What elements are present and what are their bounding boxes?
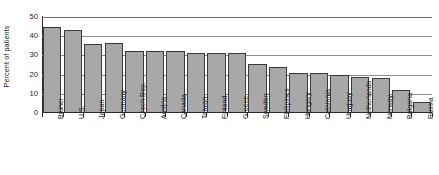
x-axis-category-label: Japan: [98, 119, 117, 173]
x-axis-category-label: U.S.: [78, 119, 92, 173]
y-axis-tick-labels: 01020304050: [12, 0, 38, 175]
y-axis-tick-label: 20: [16, 71, 38, 79]
x-axis-tick: [165, 113, 166, 117]
x-axis-tick: [411, 113, 412, 117]
x-axis-tick: [186, 113, 187, 117]
x-axis-tick: [227, 113, 228, 117]
x-axis-tick: [309, 113, 310, 117]
x-axis-tick: [247, 113, 248, 117]
x-axis-tick: [350, 113, 351, 117]
plot-area: [42, 17, 432, 113]
bar[interactable]: [64, 30, 82, 113]
x-axis-tick: [206, 113, 207, 117]
x-axis-tick: [432, 113, 433, 117]
bar-slot: [64, 17, 82, 113]
x-axis-tick: [329, 113, 330, 117]
x-axis-tick: [145, 113, 146, 117]
y-axis-tick-label: 10: [16, 90, 38, 98]
x-axis-tick: [42, 113, 43, 117]
x-axis-tick: [104, 113, 105, 117]
x-axis-category-label: Brunei: [57, 119, 78, 173]
bar-slot: [84, 17, 102, 113]
y-axis-tick-label: 0: [16, 109, 38, 117]
x-axis-tick: [268, 113, 269, 117]
x-axis-category-label: Russia: [427, 119, 439, 173]
x-axis-tick: [288, 113, 289, 117]
x-axis-tick: [370, 113, 371, 117]
bar-series: [42, 17, 432, 113]
x-axis-category-label: Austria: [160, 119, 182, 173]
y-axis-tick-label: 50: [16, 13, 38, 21]
x-axis-category-label: Taiwan: [201, 119, 223, 173]
x-axis-tick: [124, 113, 125, 117]
bar-chart-figure: Percent of patients 01020304050 BruneiU.…: [0, 0, 439, 175]
y-axis-title-text: Percent of patients: [3, 26, 12, 88]
x-axis-tick: [83, 113, 84, 117]
x-axis-tick: [391, 113, 392, 117]
y-axis-tick-label: 30: [16, 52, 38, 60]
y-axis-tick-label: 40: [16, 32, 38, 40]
x-axis-tick: [63, 113, 64, 117]
